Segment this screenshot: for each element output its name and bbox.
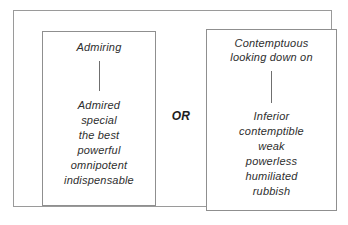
word-list-admiring: Admired special the best powerful omnipo… xyxy=(64,98,134,188)
list-item: rubbish xyxy=(239,184,304,199)
list-item: powerful xyxy=(64,143,134,158)
list-item: indispensable xyxy=(64,173,134,188)
or-connector-label: OR xyxy=(163,109,199,123)
option-heading-admiring: Admiring xyxy=(76,41,121,55)
diagram-canvas: Admiring Admired special the best powerf… xyxy=(0,0,348,225)
option-box-contemptuous: Contemptuous looking down on Inferior co… xyxy=(206,29,337,211)
list-item: omnipotent xyxy=(64,158,134,173)
list-item: powerless xyxy=(239,154,304,169)
list-item: special xyxy=(64,113,134,128)
option-box-admiring: Admiring Admired special the best powerf… xyxy=(42,31,156,206)
list-item: Admired xyxy=(64,98,134,113)
word-list-contemptuous: Inferior contemptible weak powerless hum… xyxy=(239,109,304,199)
list-item: Inferior xyxy=(239,109,304,124)
list-item: weak xyxy=(239,139,304,154)
outer-frame: Admiring Admired special the best powerf… xyxy=(13,10,332,207)
option-heading-contemptuous: Contemptuous looking down on xyxy=(230,37,313,64)
list-item: the best xyxy=(64,128,134,143)
connector-line-admiring xyxy=(99,61,100,91)
option-box-contemptuous-content: Contemptuous looking down on Inferior co… xyxy=(207,30,336,210)
option-box-admiring-content: Admiring Admired special the best powerf… xyxy=(43,32,155,205)
connector-line-contemptuous xyxy=(271,71,272,103)
list-item: contemptible xyxy=(239,124,304,139)
list-item: humiliated xyxy=(239,169,304,184)
